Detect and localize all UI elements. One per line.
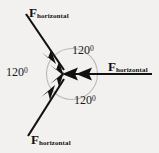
vector-label-lower-left-subscript: horizontal <box>39 139 71 147</box>
vector-label-lower-left: Fhorizontal <box>31 131 71 147</box>
vector-label-lower-left-base: F <box>31 132 39 147</box>
angle-label-bottom: 1200 <box>74 94 96 106</box>
vector-lower-left <box>28 72 64 136</box>
vector-label-right: Fhorizontal <box>108 58 148 74</box>
vector-upper-left-shaft <box>26 14 64 70</box>
angle-label-left: 1200 <box>6 66 28 78</box>
angle-label-top: 1200 <box>72 44 94 56</box>
vector-label-upper-left-subscript: horizontal <box>37 12 69 20</box>
angle-label-top-degree: 0 <box>90 44 94 53</box>
force-vector-diagram: Fhorizontal Fhorizontal Fhorizontal 1200… <box>0 0 159 153</box>
angle-label-left-degree: 0 <box>24 66 28 75</box>
vector-lower-left-shaft <box>28 79 64 136</box>
angle-label-bottom-value: 120 <box>74 93 92 107</box>
angle-label-left-value: 120 <box>6 65 24 79</box>
vector-label-upper-left-base: F <box>29 5 37 20</box>
vector-label-right-subscript: horizontal <box>116 66 148 74</box>
vector-lower-left-arrowhead-inner <box>50 72 64 87</box>
vector-label-right-base: F <box>108 59 116 74</box>
angle-label-bottom-degree: 0 <box>92 94 96 103</box>
vector-upper-left <box>26 14 64 76</box>
angle-label-top-value: 120 <box>72 43 90 57</box>
vector-label-upper-left: Fhorizontal <box>29 4 69 20</box>
